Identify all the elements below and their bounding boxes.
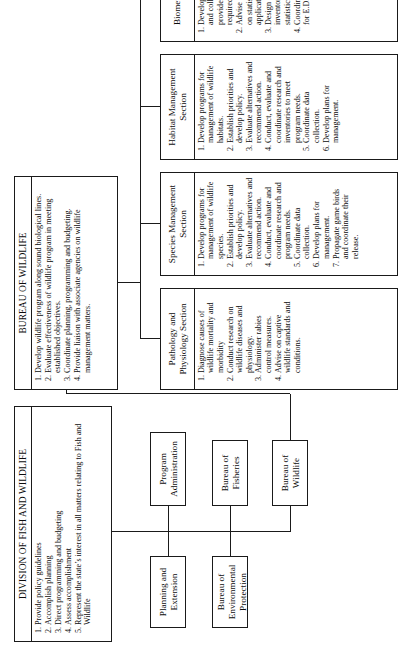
- species-management-item-list: Develop programs for management of wildl…: [195, 173, 362, 275]
- division-item-list: Provide policy guidelines Accomplish pla…: [32, 407, 95, 641]
- connector-sections-bus: [140, 0, 141, 339]
- list-item: Evaluate alternatives and recommend acti…: [245, 176, 264, 259]
- list-item: Provide liaison with associate agencies …: [73, 180, 92, 373]
- bureau-wildlife-box: Bureau of Wildlife: [272, 440, 308, 506]
- list-item: Assess accomplishment: [64, 410, 73, 625]
- list-item: Propagate game birds and coordinate thei…: [332, 176, 360, 259]
- habitat-management-section-title: Habitat Management Section: [161, 55, 195, 159]
- bureau-environmental-protection-box: Bureau of Environmental Protection: [212, 556, 248, 628]
- pathology-item-list: Diagnose causes of wildlife mortality an…: [195, 289, 304, 389]
- list-item: Establish priorities and develop policy.: [226, 58, 245, 143]
- program-administration-box: Program Administration: [150, 432, 186, 506]
- connector-pathology-drop: [140, 338, 160, 339]
- list-item: Conduct, evaluate and coordinate researc…: [264, 58, 302, 143]
- list-item: Coordinate staff needs for E.D.P.: [293, 0, 312, 25]
- list-item: Conduct research on wildlife diseases an…: [226, 292, 254, 373]
- habitat-management-item-list: Develop programs for management of wildl…: [195, 55, 343, 159]
- species-management-section-title: Species Management Section: [161, 173, 195, 275]
- species-management-section-box: Species Management Section Develop progr…: [160, 172, 398, 276]
- bureau-of-wildlife-detail-box: BUREAU OF WILDLIFE Develop wildlife prog…: [14, 176, 118, 390]
- bureau-wildlife-label: Bureau of Wildlife: [273, 441, 304, 505]
- division-box: DIVISION OF FISH AND WILDLIFE Provide po…: [14, 406, 112, 642]
- bureau-of-wildlife-title: BUREAU OF WILDLIFE: [15, 177, 32, 389]
- connector-bow-detail-riser: [66, 393, 290, 394]
- planning-and-extension-label: Planning and Extension: [151, 557, 182, 627]
- connector-progadmin-arm: [168, 506, 169, 532]
- division-title: DIVISION OF FISH AND WILDLIFE: [15, 407, 32, 641]
- list-item: Direct programming and budgeting: [54, 410, 63, 625]
- connector-bow-detail-entry: [66, 390, 67, 394]
- list-item: Develop plans for management.: [322, 58, 341, 143]
- list-item: Conduct, evaluate and coordinate researc…: [264, 176, 292, 259]
- list-item: Develop programs for management of wildl…: [197, 58, 225, 143]
- list-item: Coordinate data collection.: [293, 176, 312, 259]
- list-item: Develop plans for management.: [312, 176, 331, 259]
- list-item: Provide policy guidelines: [34, 410, 43, 625]
- planning-and-extension-box: Planning and Extension: [150, 556, 186, 628]
- connector-species-drop: [140, 223, 160, 224]
- list-item: Advise staff specialists on statistical …: [235, 0, 263, 25]
- biometrics-section-title: Biometrics Section: [161, 0, 195, 41]
- list-item: Diagnose causes of wildlife mortality an…: [197, 292, 225, 373]
- list-item: Evaluate effectiveness of wildlife progr…: [44, 180, 63, 373]
- connector-bureau-drop: [230, 531, 290, 532]
- bureau-environmental-protection-label: Bureau of Environmental Protection: [213, 557, 251, 627]
- pathology-and-physiology-section-title: Pathology and Physiology Section: [161, 289, 195, 389]
- rotated-chart-wrapper: DIVISION OF FISH AND WILDLIFE Provide po…: [0, 0, 414, 656]
- bureau-of-wildlife-item-list: Develop wildlife program along sound bio…: [32, 177, 94, 389]
- list-item: Administer rabies control measures.: [254, 292, 273, 373]
- list-item: Develop data systems and collect, receiv…: [197, 0, 235, 25]
- org-chart-canvas: DIVISION OF FISH AND WILDLIFE Provide po…: [0, 0, 414, 656]
- biometrics-item-list: Develop data systems and collect, receiv…: [195, 0, 314, 41]
- biometrics-section-box: Biometrics Section Develop data systems …: [160, 0, 398, 42]
- connector-wildlife-arm: [290, 506, 291, 532]
- list-item: Accomplish planning: [44, 410, 53, 625]
- list-item: Coordinate data collection.: [302, 58, 321, 143]
- pathology-and-physiology-section-box: Pathology and Physiology Section Diagnos…: [160, 288, 398, 390]
- list-item: Establish priorities and develop policy.: [226, 176, 245, 259]
- list-item: Advise on captive wildlife standards and…: [274, 292, 302, 373]
- list-item: Develop wildlife program along sound bio…: [34, 180, 43, 373]
- connector-habitat-drop: [140, 106, 160, 107]
- program-administration-label: Program Administration: [151, 433, 182, 505]
- list-item: Evaluate alternatives and recommend acti…: [245, 58, 264, 143]
- connector-planning-arm: [168, 532, 169, 556]
- list-item: Design surveys and inventories along sou…: [264, 0, 292, 25]
- habitat-management-section-box: Habitat Management Section Develop progr…: [160, 54, 398, 160]
- list-item: Develop programs for management of wildl…: [197, 176, 225, 259]
- connector-to-bow-detail: [290, 394, 291, 440]
- bureau-fisheries-box: Bureau of Fisheries: [212, 440, 248, 506]
- list-item: Coordinate planning, programming and bud…: [63, 180, 72, 373]
- connector-sections-trunk: [118, 282, 140, 283]
- bureau-fisheries-label: Bureau of Fisheries: [213, 441, 244, 505]
- list-item: Represent the state’s interest in all ma…: [74, 410, 93, 625]
